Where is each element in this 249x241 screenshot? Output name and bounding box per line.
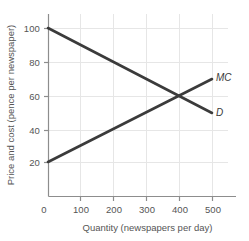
x-tick-label-0: 0 xyxy=(41,204,46,215)
x-tick-label-200: 200 xyxy=(106,204,122,215)
x-tick-label-500: 500 xyxy=(205,204,221,215)
y-axis-title-container: Price and cost (pence per newspaper) xyxy=(0,0,20,210)
vertical-gridlines xyxy=(81,14,213,196)
y-axis-title: Price and cost (pence per newspaper) xyxy=(5,25,16,186)
marginal-cost-curve-line xyxy=(48,79,212,162)
x-tick-marks xyxy=(81,197,213,202)
series-label-d: D xyxy=(216,107,223,118)
y-tick-marks xyxy=(44,29,49,163)
horizontal-gridlines xyxy=(48,29,228,163)
demand-curve-line xyxy=(48,28,212,113)
x-tick-label-100: 100 xyxy=(73,204,89,215)
economics-line-chart: 100 80 60 40 20 0 100 200 300 400 500 MC… xyxy=(0,0,249,241)
x-axis-title: Quantity (newspapers per day) xyxy=(48,222,247,233)
x-tick-label-300: 300 xyxy=(139,204,155,215)
series-label-mc: MC xyxy=(216,72,232,83)
x-tick-label-400: 400 xyxy=(172,204,188,215)
